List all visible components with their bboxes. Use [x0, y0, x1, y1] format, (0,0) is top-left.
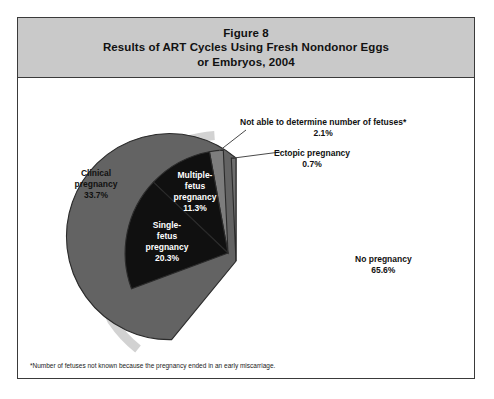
label-clinical-value: 33.7% [84, 190, 108, 200]
label-single-name-3: pregnancy [146, 242, 189, 252]
label-single-value: 20.3% [155, 253, 179, 263]
label-no-pregnancy-value: 65.6% [371, 265, 395, 275]
label-single-name-2: fetus [157, 231, 177, 241]
pie-chart-plot-area: Not able to determine number of fetuses*… [18, 78, 474, 378]
label-multiple-value: 11.3% [183, 203, 207, 213]
label-multiple-name-2: fetus [185, 181, 205, 191]
figure-title-line-1: Figure 8 [223, 26, 269, 41]
figure-title-line-2: Results of ART Cycles Using Fresh Nondon… [103, 40, 389, 55]
label-not-able-name: Not able to determine number of fetuses* [240, 117, 406, 127]
label-not-able-value: 2.1% [313, 128, 332, 138]
figure-title-line-3: or Embryos, 2004 [197, 55, 294, 70]
label-multiple-name-3: pregnancy [174, 192, 217, 202]
figure-footnote: *Number of fetuses not known because the… [30, 362, 275, 369]
label-ectopic-name: Ectopic pregnancy [274, 148, 350, 158]
label-multiple-name-1: Multiple- [178, 170, 213, 180]
figure-title-bar: Figure 8 Results of ART Cycles Using Fre… [18, 18, 474, 78]
label-clinical-name-2: pregnancy [75, 179, 118, 189]
figure-frame: Figure 8 Results of ART Cycles Using Fre… [17, 17, 475, 379]
label-no-pregnancy-name: No pregnancy [355, 254, 412, 264]
label-single-name-1: Single- [153, 220, 181, 230]
label-single-fetus-pregnancy: Single- fetus pregnancy 20.3% [136, 220, 198, 264]
label-clinical-name-1: Clinical [81, 168, 111, 178]
label-no-pregnancy: No pregnancy 65.6% [355, 254, 412, 276]
label-multiple-fetus-pregnancy: Multiple- fetus pregnancy 11.3% [164, 170, 226, 214]
label-ectopic-value: 0.7% [302, 159, 321, 169]
label-not-able-to-determine: Not able to determine number of fetuses*… [240, 117, 406, 139]
label-ectopic-pregnancy: Ectopic pregnancy 0.7% [274, 148, 350, 170]
label-clinical-pregnancy: Clinical pregnancy 33.7% [50, 168, 142, 201]
